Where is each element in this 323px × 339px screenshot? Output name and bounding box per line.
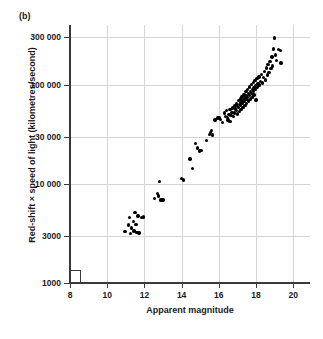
x-tick-label: 10 [95,290,119,300]
data-point [265,66,268,69]
data-point [261,81,264,84]
data-point [211,133,214,136]
gridline-vertical [182,25,183,283]
data-point [157,194,160,197]
gridline-vertical [219,25,220,283]
y-tick-mark [64,37,69,38]
axis-break-indicator [70,270,81,283]
gridline-vertical [256,25,257,283]
data-point [199,149,202,152]
y-tick-mark [64,85,69,86]
x-tick-label: 14 [170,290,194,300]
y-tick-mark [64,137,69,138]
data-point [266,63,269,66]
gridline-horizontal [70,236,310,237]
data-point [254,98,257,101]
y-axis-spine [69,25,71,283]
data-point [274,53,277,56]
data-point [188,157,191,160]
data-point [264,78,267,81]
gridline-vertical [144,25,145,283]
data-point [252,93,255,96]
gridline-horizontal [70,184,310,185]
data-point [142,215,145,218]
x-tick-mark [293,284,294,288]
y-tick-mark [64,283,69,284]
scatter-plot-area [70,25,310,283]
gridline-vertical [293,25,294,283]
data-point [279,61,282,64]
x-tick-mark [107,284,108,288]
data-point [236,112,239,115]
data-point [134,223,137,226]
data-point [272,47,275,50]
x-tick-label: 20 [281,290,305,300]
gridline-vertical [107,25,108,283]
x-tick-mark [144,284,145,288]
y-tick-mark [64,184,69,185]
x-tick-mark [219,284,220,288]
data-point [123,230,126,233]
figure-panel-b: (b) 1000300010 00030 000100 000300 000 8… [0,0,323,339]
data-point [158,180,161,183]
x-tick-label: 16 [207,290,231,300]
data-point [161,198,164,201]
y-tick-mark [64,236,69,237]
x-tick-mark [70,284,71,288]
x-axis-spine [69,282,310,284]
x-tick-label: 12 [132,290,156,300]
data-point [268,60,271,63]
gridline-horizontal [70,137,310,138]
gridline-horizontal [70,85,310,86]
data-point [182,178,185,181]
data-point [228,120,231,123]
x-axis-label: Apparent magnitude [70,305,310,315]
grid-layer [70,25,310,283]
x-tick-mark [256,284,257,288]
x-tick-label: 18 [244,290,268,300]
x-tick-mark [182,284,183,288]
y-axis-label: Red-shift × speed of light (kilometres/s… [27,20,37,270]
y-tick-label: 1000 [1,278,61,288]
x-tick-label: 8 [58,290,82,300]
data-point [137,231,140,234]
